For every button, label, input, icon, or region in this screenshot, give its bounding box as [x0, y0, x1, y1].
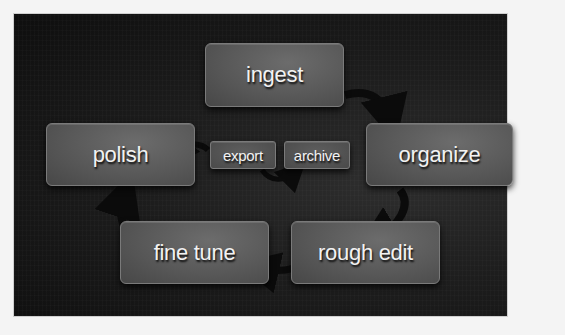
node-export-label: export [223, 147, 263, 164]
node-ingest: ingest [205, 43, 344, 107]
node-organize-label: organize [399, 142, 481, 168]
node-fine-tune-label: fine tune [154, 240, 236, 266]
node-archive: archive [284, 141, 350, 169]
arrow-export-to-archive [262, 170, 295, 179]
node-polish: polish [46, 123, 195, 186]
node-fine-tune: fine tune [120, 221, 269, 284]
node-polish-label: polish [93, 142, 149, 168]
node-ingest-label: ingest [246, 62, 303, 88]
node-rough-edit-label: rough edit [318, 240, 413, 266]
arrow-ingest-to-organize [345, 93, 390, 120]
node-organize: organize [366, 123, 513, 186]
node-rough-edit: rough edit [291, 221, 440, 284]
node-export: export [210, 141, 276, 169]
node-archive-label: archive [294, 147, 340, 164]
